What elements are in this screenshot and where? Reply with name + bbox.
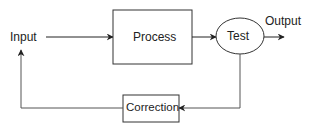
output-label: Output	[265, 15, 301, 27]
input-label: Input	[10, 31, 37, 43]
edge-correction-input	[21, 50, 123, 108]
test-label: Test	[227, 30, 249, 42]
correction-label: Correction	[126, 102, 179, 114]
process-label: Process	[133, 31, 176, 43]
